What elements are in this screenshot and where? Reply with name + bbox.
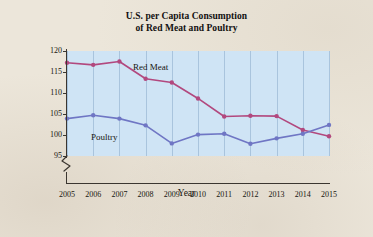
- y-axis-line: [66, 49, 67, 158]
- data-point-poultry-2013: [274, 136, 278, 140]
- data-point-red-meat-2011: [222, 114, 226, 118]
- data-point-poultry-2012: [248, 142, 252, 146]
- data-point-red-meat-2008: [143, 77, 147, 81]
- chart-title-line-1: U.S. per Capita Consumption: [126, 11, 247, 21]
- data-point-red-meat-2012: [248, 113, 252, 117]
- y-tick-115: 115: [40, 67, 62, 76]
- x-axis-title: Year: [0, 188, 373, 198]
- data-point-poultry-2011: [222, 132, 226, 136]
- x-axis-line: [66, 183, 330, 184]
- chart-figure: U.S. per Capita Consumption of Red Meat …: [0, 0, 373, 237]
- data-point-poultry-2008: [143, 123, 147, 127]
- y-tick-105: 105: [40, 109, 62, 118]
- data-point-red-meat-2006: [91, 63, 95, 67]
- data-point-red-meat-2013: [274, 114, 278, 118]
- data-point-poultry-2010: [196, 132, 200, 136]
- axis-break-icon: [60, 155, 76, 173]
- data-point-red-meat-2015: [327, 134, 331, 138]
- y-tick-95: 95: [40, 151, 62, 160]
- data-point-red-meat-2014: [301, 128, 305, 132]
- chart-title: U.S. per Capita Consumption of Red Meat …: [0, 11, 373, 34]
- data-point-red-meat-2009: [170, 80, 174, 84]
- data-point-poultry-2015: [327, 123, 331, 127]
- y-tick-110: 110: [40, 88, 62, 97]
- data-point-poultry-2009: [170, 141, 174, 145]
- y-tick-100: 100: [40, 130, 62, 139]
- data-point-poultry-2007: [117, 116, 121, 120]
- series-label-poultry: Poultry: [91, 132, 118, 142]
- chart-title-line-2: of Red Meat and Poultry: [0, 23, 373, 35]
- data-point-poultry-2006: [91, 113, 95, 117]
- series-label-red-meat: Red Meat: [133, 62, 168, 72]
- data-point-poultry-2014: [301, 132, 305, 136]
- data-point-red-meat-2007: [117, 59, 121, 63]
- y-tick-120: 120: [40, 46, 62, 55]
- data-point-red-meat-2010: [196, 96, 200, 100]
- gridline-2015: [329, 51, 330, 156]
